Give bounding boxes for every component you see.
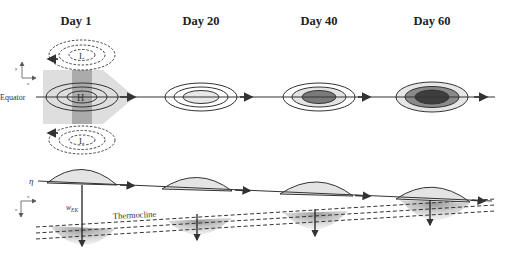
- eta-label: η: [29, 176, 34, 186]
- axis-y-label: y: [15, 66, 18, 71]
- axis-z-label: z: [15, 207, 17, 212]
- low-label-south: L: [79, 136, 85, 146]
- xz-axes-icon: [19, 199, 36, 217]
- kelvin-wave-diagram: L L y x Equator H: [0, 0, 509, 259]
- axis-x-label: x: [27, 81, 30, 86]
- thermocline-depressions: [50, 200, 470, 245]
- equator-label: Equator: [0, 93, 26, 102]
- axis-x-label-bottom: x: [27, 194, 30, 199]
- low-label-north: L: [79, 51, 85, 61]
- w-ek-label: wEK: [66, 203, 78, 213]
- thermocline-label: Thermocline: [113, 209, 157, 221]
- xy-axes-icon: [20, 62, 36, 80]
